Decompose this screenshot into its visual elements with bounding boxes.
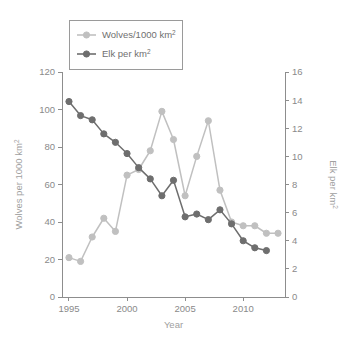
data-point-marker[interactable] xyxy=(252,223,258,229)
data-point-marker[interactable] xyxy=(275,230,281,236)
line-chart-canvas: 020406080100120Wolves per 1000 km2024681… xyxy=(0,0,344,344)
data-point-marker[interactable] xyxy=(182,214,188,220)
data-point-marker[interactable] xyxy=(170,136,176,142)
data-point-marker[interactable] xyxy=(159,193,165,199)
data-point-marker[interactable] xyxy=(124,150,130,156)
right-axis-tick-label: 6 xyxy=(292,207,297,218)
data-point-marker[interactable] xyxy=(101,131,107,137)
data-point-marker[interactable] xyxy=(205,217,211,223)
data-point-marker[interactable] xyxy=(194,211,200,217)
data-point-marker[interactable] xyxy=(217,207,223,213)
right-axis-tick-label: 4 xyxy=(292,235,297,246)
x-axis-tick-label: 2005 xyxy=(175,303,196,314)
data-point-marker[interactable] xyxy=(263,247,269,253)
data-point-marker[interactable] xyxy=(124,172,130,178)
left-axis-tick-label: 60 xyxy=(44,179,55,190)
data-point-marker[interactable] xyxy=(89,117,95,123)
left-axis-tick-label: 20 xyxy=(44,254,55,265)
data-point-marker[interactable] xyxy=(159,108,165,114)
x-axis-tick-label: 2010 xyxy=(233,303,254,314)
left-axis-title: Wolves per 1000 km2 xyxy=(13,139,24,229)
legend-marker-swatch xyxy=(83,51,89,57)
data-point-marker[interactable] xyxy=(240,223,246,229)
legend-entry-label: Wolves/1000 km2 xyxy=(102,29,176,40)
data-point-marker[interactable] xyxy=(89,234,95,240)
data-point-marker[interactable] xyxy=(147,176,153,182)
chart-figure: 020406080100120Wolves per 1000 km2024681… xyxy=(0,0,344,344)
legend-entry-label: Elk per km2 xyxy=(102,48,151,59)
series-1 xyxy=(66,108,281,264)
right-axis-tick-label: 12 xyxy=(292,123,303,134)
data-point-marker[interactable] xyxy=(101,215,107,221)
data-point-marker[interactable] xyxy=(66,98,72,104)
left-axis-tick-label: 100 xyxy=(39,104,55,115)
legend-marker-swatch xyxy=(83,32,89,38)
right-axis-tick-label: 10 xyxy=(292,151,303,162)
left-axis-tick-label: 80 xyxy=(44,141,55,152)
data-point-marker[interactable] xyxy=(228,221,234,227)
x-axis-tick-label: 2000 xyxy=(116,303,137,314)
right-axis-tick-label: 14 xyxy=(292,95,303,106)
right-axis-tick-label: 8 xyxy=(292,179,297,190)
data-point-marker[interactable] xyxy=(112,139,118,145)
data-point-marker[interactable] xyxy=(205,118,211,124)
right-axis-tick-label: 2 xyxy=(292,263,297,274)
data-point-marker[interactable] xyxy=(240,238,246,244)
data-point-marker[interactable] xyxy=(182,193,188,199)
left-axis-tick-label: 40 xyxy=(44,216,55,227)
left-axis-tick-label: 0 xyxy=(50,291,55,302)
x-axis-title: Year xyxy=(164,319,183,330)
data-point-marker[interactable] xyxy=(217,187,223,193)
right-axis-tick-label: 0 xyxy=(292,291,297,302)
data-point-marker[interactable] xyxy=(112,228,118,234)
data-point-marker[interactable] xyxy=(77,258,83,264)
legend: Wolves/1000 km2Elk per km2 xyxy=(69,20,182,69)
data-point-marker[interactable] xyxy=(194,153,200,159)
data-point-marker[interactable] xyxy=(136,165,142,171)
data-point-marker[interactable] xyxy=(170,177,176,183)
left-axis-tick-label: 120 xyxy=(39,66,55,77)
data-point-marker[interactable] xyxy=(77,112,83,118)
right-axis-title: Elk per km2 xyxy=(328,160,339,209)
right-axis-tick-label: 16 xyxy=(292,66,303,77)
axes-group: 020406080100120Wolves per 1000 km2024681… xyxy=(13,66,339,330)
data-point-marker[interactable] xyxy=(252,245,258,251)
legend-box xyxy=(69,20,182,69)
data-point-marker[interactable] xyxy=(263,230,269,236)
data-point-marker[interactable] xyxy=(66,255,72,261)
x-axis-tick-label: 1995 xyxy=(58,303,79,314)
series-group xyxy=(66,98,281,264)
data-point-marker[interactable] xyxy=(147,148,153,154)
